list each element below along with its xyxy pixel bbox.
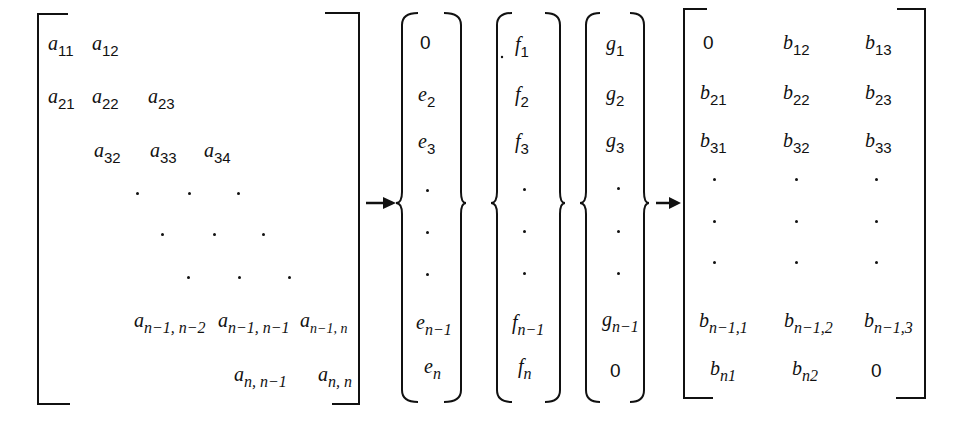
ellipsis-dot	[136, 192, 139, 195]
matrix-b-entry: b12	[783, 32, 810, 52]
matrix-a-left-bracket	[38, 14, 70, 404]
vector-f-entry: f1	[515, 34, 529, 54]
matrix-b-right-bracket	[896, 9, 925, 398]
vector-g-entry: g3	[606, 130, 624, 150]
matrix-a-entry: a32	[94, 140, 121, 160]
ellipsis-dot	[426, 231, 429, 234]
ellipsis-dot	[523, 272, 526, 275]
matrix-b-entry: b33	[865, 130, 892, 150]
matrix-a-entry: an−1, n−1	[218, 310, 290, 330]
matrix-b-entry: bn2	[792, 358, 818, 378]
ellipsis-dot	[188, 192, 191, 195]
vector-g-entry: g1	[606, 33, 624, 53]
vector-e-entry: en−1	[416, 312, 452, 332]
ellipsis-dot	[523, 230, 526, 233]
matrix-a-right-bracket	[325, 13, 359, 404]
arrow-1-icon	[383, 197, 396, 209]
ellipsis-dot	[713, 261, 716, 264]
matrix-b-entry: 0	[871, 361, 882, 380]
matrix-a-entry: a11	[48, 33, 74, 53]
vector-e-entry: en	[424, 356, 441, 376]
vector-f-entry: fn	[518, 356, 532, 376]
matrix-a-entry: an−1, n−2	[134, 310, 206, 330]
matrix-b-entry: 0	[703, 33, 714, 52]
ellipsis-dot	[617, 230, 620, 233]
arrow-2-icon	[669, 197, 681, 209]
ellipsis-dot	[617, 187, 620, 190]
matrix-a-entry: a34	[204, 140, 231, 160]
ellipsis-dot	[795, 261, 798, 264]
vector-g-left-brace	[580, 13, 600, 402]
ellipsis-dot	[523, 188, 526, 191]
ellipsis-dot	[187, 276, 190, 279]
vector-f-right-brace	[545, 13, 565, 402]
vector-g-last: 0	[610, 361, 621, 380]
vector-g-right-brace	[630, 13, 649, 402]
matrix-a-entry: a33	[150, 140, 177, 160]
matrix-b-left-bracket	[684, 9, 713, 398]
ellipsis-dot	[795, 220, 798, 223]
vector-f-entry: fn−1	[512, 312, 544, 332]
matrix-a-entry: an−1, n	[300, 310, 347, 330]
ellipsis-dot	[238, 276, 241, 279]
matrix-b-entry: b31	[700, 130, 727, 150]
ellipsis-dot	[262, 233, 265, 236]
ellipsis-dot	[426, 273, 429, 276]
ellipsis-dot	[713, 220, 716, 223]
vector-f-left-brace	[491, 13, 512, 402]
matrix-a-entry: a12	[92, 33, 119, 53]
matrix-a-entry: a21	[48, 86, 75, 106]
vector-e-left-brace	[396, 13, 418, 402]
matrix-b-entry: b22	[783, 82, 810, 102]
matrix-a-entry: an, n−1	[234, 364, 287, 384]
ellipsis-dot	[213, 233, 216, 236]
vector-e-entry: e3	[418, 131, 435, 151]
ellipsis-dot	[426, 189, 429, 192]
matrix-b-entry: b21	[700, 82, 727, 102]
vector-e-right-brace	[444, 13, 466, 402]
vector-e-first: 0	[420, 33, 431, 52]
matrix-b-entry: bn−1,1	[699, 310, 748, 330]
ellipsis-dot	[875, 178, 878, 181]
ellipsis-dot	[161, 233, 164, 236]
matrix-a-entry: a22	[92, 86, 119, 106]
matrix-b-entry: bn1	[710, 358, 736, 378]
vector-g-entry: g2	[606, 83, 624, 103]
matrix-b-entry: b32	[783, 130, 810, 150]
vector-f-entry: f2	[515, 84, 529, 104]
matrix-a-entry: an, n	[318, 364, 352, 384]
ellipsis-dot	[875, 220, 878, 223]
matrix-a-entry: a23	[148, 86, 175, 106]
ellipsis-dot	[875, 261, 878, 264]
ellipsis-dot	[617, 272, 620, 275]
vector-f-entry: f3	[515, 131, 529, 151]
ellipsis-dot	[237, 192, 240, 195]
vector-e-entry: e2	[418, 84, 435, 104]
ellipsis-dot	[288, 276, 291, 279]
ellipsis-dot	[795, 178, 798, 181]
matrix-b-entry: bn−1,2	[784, 310, 833, 330]
matrix-b-entry: bn−1,3	[864, 310, 913, 330]
vector-g-entry: gn−1	[602, 309, 639, 329]
matrix-b-entry: b13	[865, 32, 892, 52]
matrix-b-entry: b23	[865, 82, 892, 102]
ellipsis-dot	[713, 178, 716, 181]
